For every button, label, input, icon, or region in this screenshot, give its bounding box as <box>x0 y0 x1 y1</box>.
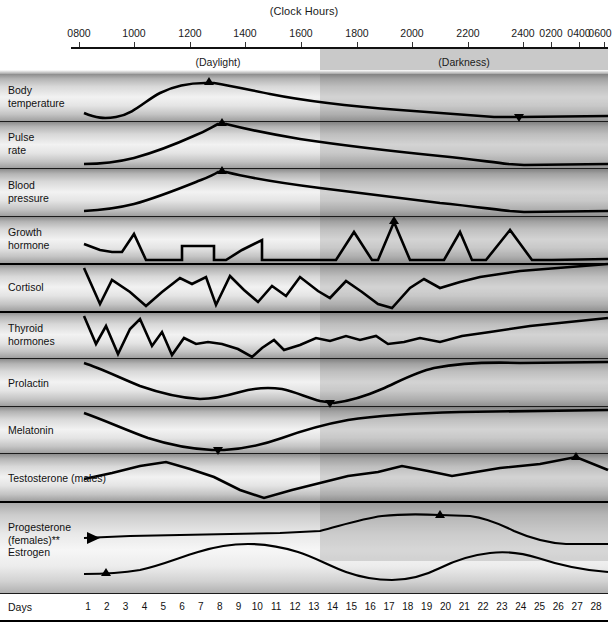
curve-body-temperature <box>84 83 608 118</box>
tick-label-1200: 1200 <box>178 27 201 39</box>
day-number-12: 12 <box>289 601 300 612</box>
day-number-16: 16 <box>365 601 376 612</box>
curve-melatonin <box>84 410 608 450</box>
row-label-line2: hormones <box>8 335 55 347</box>
row-label-line1: Growth <box>8 226 42 238</box>
row-label-prolactin: Prolactin <box>8 377 49 390</box>
days-axis-label: Days <box>8 601 32 613</box>
day-number-25: 25 <box>534 601 545 612</box>
curve-testosterone <box>84 457 608 498</box>
day-number-8: 8 <box>217 601 223 612</box>
day-number-21: 21 <box>459 601 470 612</box>
trough-marker-estrogen <box>101 568 111 576</box>
day-number-1: 1 <box>85 601 91 612</box>
tick-label-0400: 0400 <box>567 27 590 39</box>
row-label-testosterone: Testosterone (males) <box>8 472 106 485</box>
row-label-growth-hormone: Growth hormone <box>8 226 49 251</box>
day-number-15: 15 <box>346 601 357 612</box>
curve-growth-hormone <box>84 222 608 260</box>
clock-axis-rule <box>71 47 608 49</box>
row-label-line2: temperature <box>8 97 65 109</box>
row-label-line2: hormone <box>8 239 49 251</box>
row-label-line1: Cortisol <box>8 281 44 293</box>
row-label-cortisol: Cortisol <box>8 281 44 294</box>
day-number-5: 5 <box>160 601 166 612</box>
row-label-body-temperature: Body temperature <box>8 84 65 109</box>
tick-label-1600: 1600 <box>289 27 312 39</box>
bottom-rule <box>0 620 608 622</box>
row-label-line1: Testosterone (males) <box>8 472 106 484</box>
row-label-line1: Pulse <box>8 131 34 143</box>
day-number-23: 23 <box>496 601 507 612</box>
row-label-line2: rate <box>8 144 26 156</box>
peak-marker-blood-pressure <box>217 166 227 174</box>
plot-area: Body temperature Pulse rate Blood pressu… <box>0 74 608 598</box>
row-label-line1: Melatonin <box>8 424 54 436</box>
row-label-blood-pressure: Blood pressure <box>8 179 49 204</box>
peak-marker-pulse-rate <box>217 118 227 126</box>
peak-marker-body-temperature <box>204 77 214 85</box>
day-number-2: 2 <box>104 601 110 612</box>
day-number-3: 3 <box>123 601 129 612</box>
day-number-7: 7 <box>198 601 204 612</box>
tick-label-2200: 2200 <box>456 27 479 39</box>
curve-thyroid-hormones <box>84 316 608 357</box>
day-number-9: 9 <box>236 601 242 612</box>
row-label-line2: (females)** <box>8 534 60 546</box>
curve-pulse-rate <box>84 124 608 165</box>
trough-marker-progesterone <box>87 532 100 544</box>
row-label-line1: Body <box>8 84 32 96</box>
row-label-pulse-rate: Pulse rate <box>8 131 34 156</box>
tick-label-1000: 1000 <box>122 27 145 39</box>
curve-progesterone <box>84 514 608 544</box>
tick-label-1400: 1400 <box>233 27 256 39</box>
day-number-19: 19 <box>421 601 432 612</box>
curve-prolactin <box>84 362 608 403</box>
tick-label-2000: 2000 <box>400 27 423 39</box>
day-number-17: 17 <box>383 601 394 612</box>
curve-cortisol <box>84 264 608 308</box>
row-label-melatonin: Melatonin <box>8 424 54 437</box>
darkness-label: (Darkness) <box>438 56 489 68</box>
day-number-22: 22 <box>478 601 489 612</box>
tick-label-0800: 0800 <box>67 27 90 39</box>
curve-blood-pressure <box>84 172 608 212</box>
day-number-13: 13 <box>308 601 319 612</box>
row-label-progesterone-estrogen: Progesterone (females)** Estrogen <box>8 521 71 559</box>
day-number-14: 14 <box>327 601 338 612</box>
day-number-4: 4 <box>142 601 148 612</box>
row-label-line1: Prolactin <box>8 377 49 389</box>
tick-label-0200: 0200 <box>539 27 562 39</box>
tick-label-0600: 0600 <box>588 27 611 39</box>
row-label-line3: Estrogen <box>8 546 50 558</box>
row-label-line2: pressure <box>8 192 49 204</box>
curves-layer <box>0 74 608 598</box>
day-number-27: 27 <box>572 601 583 612</box>
chart-title: (Clock Hours) <box>0 5 608 17</box>
peak-marker-testosterone <box>571 452 581 460</box>
day-number-24: 24 <box>515 601 526 612</box>
daylight-label: (Daylight) <box>196 56 241 68</box>
day-number-6: 6 <box>179 601 185 612</box>
day-number-28: 28 <box>590 601 601 612</box>
day-number-10: 10 <box>252 601 263 612</box>
tick-label-1800: 1800 <box>345 27 368 39</box>
row-label-line1: Thyroid <box>8 322 43 334</box>
day-number-11: 11 <box>271 601 281 612</box>
day-number-26: 26 <box>553 601 564 612</box>
day-number-20: 20 <box>440 601 451 612</box>
row-label-line1: Blood <box>8 179 35 191</box>
tick-label-2400: 2400 <box>511 27 534 39</box>
row-label-thyroid-hormones: Thyroid hormones <box>8 322 55 347</box>
peak-marker-growth-hormone <box>389 216 399 224</box>
day-number-18: 18 <box>402 601 413 612</box>
row-label-line1: Progesterone <box>8 521 71 533</box>
curve-estrogen <box>84 544 608 580</box>
